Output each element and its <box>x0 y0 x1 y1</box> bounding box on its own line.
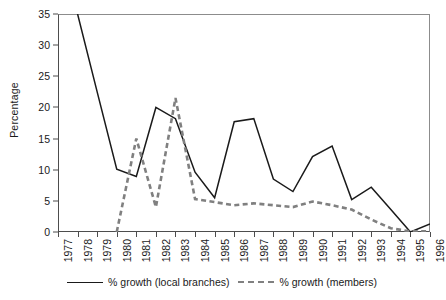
x-tick-mark <box>175 232 176 237</box>
x-tick-mark <box>234 232 235 237</box>
legend-label-local-branches: % growth (local branches) <box>108 276 229 288</box>
x-tick-label: 1977 <box>62 239 74 262</box>
x-tick-label: 1986 <box>238 239 250 262</box>
x-tick-mark <box>313 232 314 237</box>
legend-item-local-branches: % growth (local branches) <box>67 276 229 288</box>
x-tick-label: 1994 <box>395 239 407 262</box>
x-tick-mark <box>273 232 274 237</box>
x-tick-label: 1983 <box>179 239 191 262</box>
x-tick-label: 1981 <box>140 239 152 262</box>
x-tick-mark <box>78 232 79 237</box>
plot-area: 05101520253035 1977197819791980198119821… <box>58 14 430 232</box>
legend-label-members: % growth (members) <box>279 276 376 288</box>
x-tick-mark <box>410 232 411 237</box>
x-tick-mark <box>195 232 196 237</box>
x-tick-label: 1990 <box>317 239 329 262</box>
x-tick-label: 1985 <box>219 239 231 262</box>
legend-item-members: % growth (members) <box>238 276 376 288</box>
x-tick-label: 1991 <box>336 239 348 262</box>
x-tick-label: 1979 <box>101 239 113 262</box>
series-line-local-branches <box>78 14 430 232</box>
data-lines <box>58 14 430 232</box>
x-tick-label: 1982 <box>160 239 172 262</box>
x-tick-label: 1992 <box>356 239 368 262</box>
x-tick-label: 1978 <box>82 239 94 262</box>
chart-legend: % growth (local branches) % growth (memb… <box>0 276 444 288</box>
x-tick-label: 1995 <box>414 239 426 262</box>
x-tick-label: 1984 <box>199 239 211 262</box>
x-tick-label: 1993 <box>375 239 387 262</box>
x-tick-mark <box>215 232 216 237</box>
x-tick-label: 1996 <box>434 239 446 262</box>
x-tick-label: 1987 <box>258 239 270 262</box>
x-tick-mark <box>332 232 333 237</box>
dashed-line-swatch-icon <box>238 281 274 283</box>
x-tick-mark <box>430 232 431 237</box>
x-tick-mark <box>136 232 137 237</box>
x-tick-mark <box>371 232 372 237</box>
x-tick-mark <box>254 232 255 237</box>
y-axis-title: Percentage <box>8 65 20 155</box>
x-tick-mark <box>293 232 294 237</box>
series-line-members <box>117 98 430 232</box>
x-tick-mark <box>97 232 98 237</box>
x-tick-label: 1989 <box>297 239 309 262</box>
x-tick-label: 1988 <box>277 239 289 262</box>
x-tick-mark <box>352 232 353 237</box>
x-tick-label: 1980 <box>121 239 133 262</box>
x-tick-mark <box>391 232 392 237</box>
x-tick-mark <box>156 232 157 237</box>
x-tick-mark <box>58 232 59 237</box>
x-tick-mark <box>117 232 118 237</box>
solid-line-swatch-icon <box>67 282 103 283</box>
